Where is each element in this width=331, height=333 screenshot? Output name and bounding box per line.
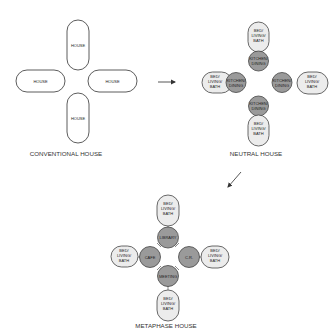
kitchen-top-l2: DINING	[252, 61, 266, 66]
private-left-l3: BATH	[210, 84, 220, 89]
private-top-l3: BATH	[253, 38, 263, 43]
house-unit-top-label: HOUSE	[71, 43, 86, 48]
m-private-top-l3: BATH	[163, 211, 173, 216]
cr-label: C.R.	[185, 255, 193, 260]
house-unit-bottom-label: HOUSE	[71, 116, 86, 121]
metaphase-house-group: BED/ LIVING/ BATH BED/ LIVING/ BATH BED/…	[111, 195, 229, 329]
cafe-label: CAFE	[145, 255, 156, 260]
kitchen-right-l2: DINING	[275, 83, 289, 88]
metaphase-house-title: METAPHASE HOUSE	[135, 322, 196, 329]
neutral-house-title: NEUTRAL HOUSE	[230, 150, 282, 157]
house-unit-right-label: HOUSE	[105, 79, 120, 84]
arrow-down-left-icon	[228, 172, 241, 187]
m-private-bottom-l3: BATH	[163, 306, 173, 311]
kitchen-bottom-l2: DINING	[252, 106, 266, 111]
diagram-canvas: HOUSE HOUSE HOUSE HOUSE CONVENTIONAL HOU…	[0, 0, 331, 333]
kitchen-left-l2: DINING	[229, 83, 243, 88]
private-bottom-l3: BATH	[253, 131, 263, 136]
m-private-right-l3: BATH	[210, 258, 220, 263]
private-right-l3: BATH	[307, 84, 317, 89]
library-label: LIBRARY	[159, 235, 176, 240]
m-private-left-l3: BATH	[119, 258, 129, 263]
conventional-house-title: CONVENTIONAL HOUSE	[30, 150, 102, 157]
neutral-house-group: BED/ LIVING/ BATH KITCHEN/ DINING BED/ L…	[202, 22, 328, 157]
conventional-house-group: HOUSE HOUSE HOUSE HOUSE CONVENTIONAL HOU…	[16, 20, 137, 157]
meeting-label: MEETING	[159, 274, 177, 279]
house-unit-left-label: HOUSE	[33, 79, 48, 84]
